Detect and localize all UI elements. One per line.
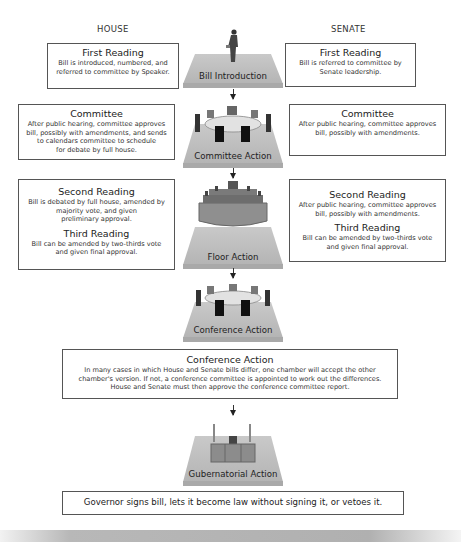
flow-arrow <box>233 89 234 99</box>
senate-second-reading-line: bill, possibly with amendments. <box>294 210 441 219</box>
committee-table-icon <box>193 104 273 144</box>
house-committee-line: to calendars committee to schedule <box>23 137 170 146</box>
senate-column-heading: SENATE <box>331 24 366 34</box>
senate-first-reading-line: Senate leadership. <box>290 68 411 77</box>
senate-second-reading-title: Second Reading <box>294 189 441 201</box>
house-committee-line: for debate by full house. <box>23 146 170 155</box>
governor-action-text: Governor signs bill, lets it become law … <box>67 497 399 507</box>
house-third-reading-line: Bill can be amended by two-thirds vote <box>23 240 170 249</box>
senate-first-reading-title: First Reading <box>290 47 411 59</box>
stage-label: Floor Action <box>183 252 283 262</box>
stage-label: Committee Action <box>183 151 283 161</box>
conference-action-line: House and Senate must then approve the c… <box>67 383 393 392</box>
flow-arrow <box>233 405 234 415</box>
conference-action-line: chamber's version. If not, a conference … <box>67 375 393 384</box>
house-second-reading-line: preliminary approval. <box>23 215 170 224</box>
governor-desk-icon <box>203 424 263 464</box>
house-first-reading-title: First Reading <box>52 47 174 59</box>
house-column-heading: HOUSE <box>97 24 129 34</box>
stage-label: Conference Action <box>183 325 283 335</box>
stage-committee-action: Committee Action <box>183 102 283 168</box>
house-second-reading-line: majority vote, and given <box>23 207 170 216</box>
conference-table-icon <box>193 282 273 318</box>
senate-committee-box: Committee After public hearing, committe… <box>289 104 446 156</box>
house-committee-line: After public hearing, committee approves <box>23 120 170 129</box>
senate-committee-title: Committee <box>294 108 441 120</box>
house-committee-title: Committee <box>23 108 170 120</box>
conference-action-line: In many cases in which House and Senate … <box>67 366 393 375</box>
stage-gubernatorial-action: Gubernatorial Action <box>183 418 283 486</box>
senate-committee-line: After public hearing, committee approves <box>294 120 441 129</box>
house-first-reading-box: First Reading Bill is introduced, number… <box>47 43 179 89</box>
flow-arrow <box>233 168 234 178</box>
house-committee-line: bill, possibly with amendments, and send… <box>23 129 170 138</box>
stage-conference-action: Conference Action <box>183 282 283 342</box>
person-icon <box>226 29 240 63</box>
stage-label: Bill Introduction <box>183 71 283 81</box>
house-third-reading-title: Third Reading <box>23 228 170 240</box>
house-second-reading-title: Second Reading <box>23 186 170 198</box>
house-third-reading-line: and given final approval. <box>23 248 170 257</box>
house-first-reading-line: referred to committee by Speaker. <box>52 68 174 77</box>
senate-first-reading-line: Bill is referred to committee by <box>290 59 411 68</box>
senate-committee-line: bill, possibly with amendments. <box>294 129 441 138</box>
house-second-reading-line: Bill is debated by full house, amended b… <box>23 198 170 207</box>
senate-third-reading-line: and given final approval. <box>294 243 441 252</box>
stage-floor-action: Floor Action <box>183 181 283 269</box>
flow-arrow <box>233 268 234 278</box>
chamber-icon <box>191 181 275 231</box>
governor-action-box: Governor signs bill, lets it become law … <box>62 491 404 515</box>
conference-action-title: Conference Action <box>67 354 393 366</box>
house-committee-box: Committee After public hearing, committe… <box>18 104 175 160</box>
house-floor-box: Second Reading Bill is debated by full h… <box>18 179 175 270</box>
senate-third-reading-line: Bill can be amended by two-thirds vote <box>294 234 441 243</box>
senate-second-reading-line: After public hearing, committee approves <box>294 201 441 210</box>
house-first-reading-line: Bill is introduced, numbered, and <box>52 59 174 68</box>
stage-label: Gubernatorial Action <box>183 469 283 479</box>
senate-third-reading-title: Third Reading <box>294 222 441 234</box>
footer-divider <box>0 530 461 542</box>
conference-action-box: Conference Action In many cases in which… <box>62 349 398 399</box>
senate-first-reading-box: First Reading Bill is referred to commit… <box>285 43 416 87</box>
stage-bill-introduction: Bill Introduction <box>183 30 283 88</box>
senate-floor-box: Second Reading After public hearing, com… <box>289 179 446 262</box>
